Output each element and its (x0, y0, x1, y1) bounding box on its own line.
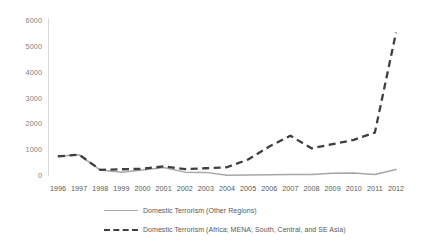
legend-label-africa-mena-asia: Domestic Terrorism (Africa; MENA; South,… (143, 226, 346, 233)
chart-container: 0100020003000400050006000 19961997199819… (0, 0, 431, 251)
series-line-africa-mena-asia (58, 33, 396, 170)
y-tick-label: 3000 (6, 95, 42, 102)
y-tick-label: 6000 (6, 17, 42, 24)
y-tick-label: 4000 (6, 69, 42, 76)
y-tick-label: 0 (6, 172, 42, 179)
legend-solid-line-icon (104, 210, 138, 211)
legend-dashed-line-icon (104, 229, 138, 231)
y-tick-label: 1000 (6, 146, 42, 153)
y-tick-label: 5000 (6, 43, 42, 50)
series-line-other-regions (58, 155, 396, 175)
y-tick-label: 2000 (6, 120, 42, 127)
legend-label-other-regions: Domestic Terrorism (Other Regions) (143, 207, 257, 214)
legend-item-africa-mena-asia[interactable]: Domestic Terrorism (Africa; MENA; South,… (104, 226, 346, 233)
x-tick-label: 2012 (383, 185, 409, 192)
legend-item-other-regions[interactable]: Domestic Terrorism (Other Regions) (104, 207, 257, 214)
